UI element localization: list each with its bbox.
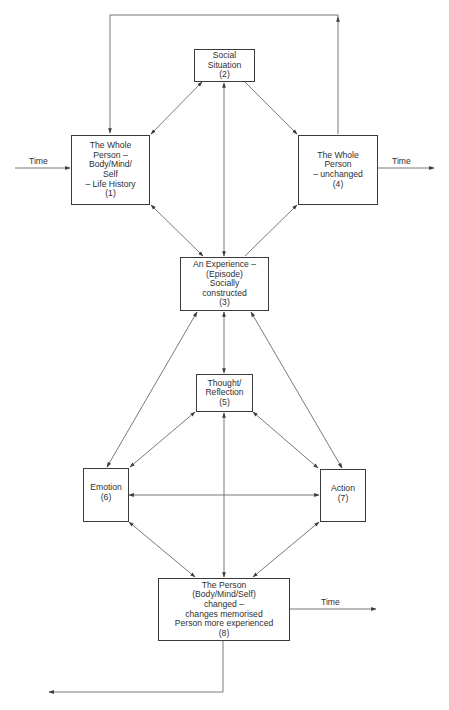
edge-3-7 xyxy=(251,312,342,468)
time-label-in: Time xyxy=(29,156,48,166)
edge-5-7 xyxy=(253,412,318,468)
time-label-out-8: Time xyxy=(321,597,340,607)
return-path-bottom xyxy=(49,641,223,692)
node-emotion: Emotion (6) xyxy=(83,468,129,522)
edge-3-4 xyxy=(245,205,297,256)
node-whole-person-life-history: The Whole Person – Body/Mind/ Self – Lif… xyxy=(71,135,150,205)
edge-2-4 xyxy=(245,82,297,134)
edge-7-8 xyxy=(253,522,319,577)
node-social-situation: Social Situation (2) xyxy=(194,49,255,82)
edge-6-8 xyxy=(129,522,195,577)
node-thought-reflection: Thought/ Reflection (5) xyxy=(196,374,253,412)
node-2-number: (2) xyxy=(219,70,230,80)
node-person-changed: The Person (Body/Mind/Self) changed – ch… xyxy=(158,578,290,641)
node-action: Action (7) xyxy=(320,469,366,522)
node-8-number: (8) xyxy=(219,629,230,639)
edge-3-6 xyxy=(107,312,197,467)
node-3-number: (3) xyxy=(219,298,230,308)
node-experience-episode: An Experience – (Episode) Socially const… xyxy=(180,257,269,311)
time-label-out-4: Time xyxy=(392,156,411,166)
node-6-number: (6) xyxy=(101,493,112,503)
edge-1-3 xyxy=(151,205,203,256)
diagram: Time Time Time The Whole Person – Body/M… xyxy=(0,0,449,710)
edge-2-1 xyxy=(151,82,202,134)
node-1-number: (1) xyxy=(105,189,116,199)
edge-5-6 xyxy=(130,412,195,467)
node-5-number: (5) xyxy=(219,398,230,408)
node-7-number: (7) xyxy=(338,494,349,504)
node-4-number: (4) xyxy=(333,180,344,190)
node-whole-person-unchanged: The Whole Person – unchanged (4) xyxy=(298,135,378,205)
